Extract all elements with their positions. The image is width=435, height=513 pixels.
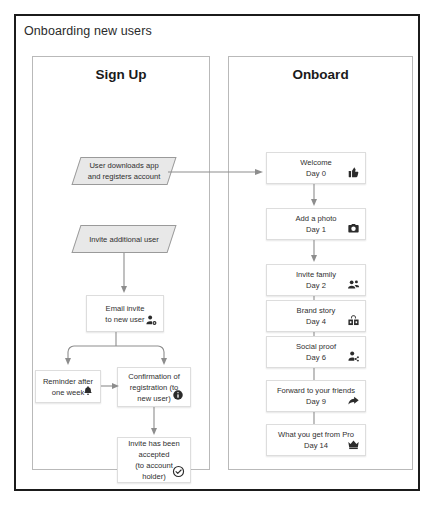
connector-reminder-to-confirmation <box>101 381 121 391</box>
node-invite-additional-user-label: Invite additional user <box>68 225 180 253</box>
node-onboard-welcome[interactable]: WelcomeDay 0 <box>266 152 366 184</box>
check-circle-icon <box>171 464 185 478</box>
node-onboard-welcome-day: Day 0 <box>306 169 326 178</box>
node-onboard-welcome-title: Welcome <box>300 158 332 167</box>
node-onboard-social-title: Social proof <box>296 342 336 351</box>
connector-invite-to-email <box>120 253 132 295</box>
node-onboard-family-title: Invite family <box>296 270 336 279</box>
node-onboard-photo[interactable]: Add a photoDay 1 <box>266 208 366 240</box>
node-onboard-forward[interactable]: Forward to your friendsDay 9 <box>266 380 366 412</box>
info-icon <box>171 388 185 402</box>
node-email-invite[interactable]: Email invite to new user <box>86 295 164 332</box>
node-onboard-forward-title: Forward to your friends <box>277 386 355 395</box>
node-onboard-forward-day: Day 9 <box>306 397 326 406</box>
node-onboard-family-day: Day 2 <box>306 281 326 290</box>
node-onboard-pro[interactable]: What you get from ProDay 14 <box>266 424 366 456</box>
node-onboard-brand-day: Day 4 <box>306 317 326 326</box>
bell-icon <box>81 384 95 398</box>
arrow-forward-icon <box>346 393 360 407</box>
node-email-invite-label: Email invite to new user <box>102 303 147 325</box>
lane-title-sign-up: Sign Up <box>33 67 209 82</box>
connector-welcome-to-photo <box>310 184 322 208</box>
diagram-title: Onboarding new users <box>24 24 152 38</box>
people-add-icon <box>346 277 360 291</box>
node-onboard-brand-title: Brand story <box>297 306 336 315</box>
lane-title-onboard: Onboard <box>229 67 412 82</box>
node-onboard-photo-title: Add a photo <box>296 214 337 223</box>
node-onboard-brand[interactable]: Brand storyDay 4 <box>266 300 366 332</box>
diagram-canvas: Onboarding new users Sign Up Onboard Use… <box>0 0 435 513</box>
node-onboard-social-day: Day 6 <box>306 353 326 362</box>
connector-photo-to-family <box>310 240 322 264</box>
node-invite-accepted[interactable]: Invite has been accepted (to account hol… <box>117 437 191 483</box>
node-reminder[interactable]: Reminder after one week <box>35 370 101 403</box>
node-onboard-photo-day: Day 1 <box>306 225 326 234</box>
connector-signup-to-onboard <box>168 166 266 178</box>
node-onboard-family[interactable]: Invite familyDay 2 <box>266 264 366 296</box>
thumbs-up-icon <box>346 165 360 179</box>
connector-email-branch <box>52 332 168 370</box>
node-onboard-pro-title: What you get from Pro <box>278 430 354 439</box>
share-person-icon <box>346 349 360 363</box>
node-onboard-pro-day: Day 14 <box>304 441 328 450</box>
node-confirmation[interactable]: Confirmation of registration (to new use… <box>117 367 191 407</box>
camera-icon <box>346 221 360 235</box>
crown-icon <box>346 437 360 451</box>
node-user-downloads-label: User downloads app and registers account <box>68 157 180 185</box>
person-add-icon <box>144 313 158 327</box>
node-onboard-social[interactable]: Social proofDay 6 <box>266 336 366 368</box>
connector-confirmation-to-accepted <box>150 407 162 437</box>
store-icon <box>346 313 360 327</box>
